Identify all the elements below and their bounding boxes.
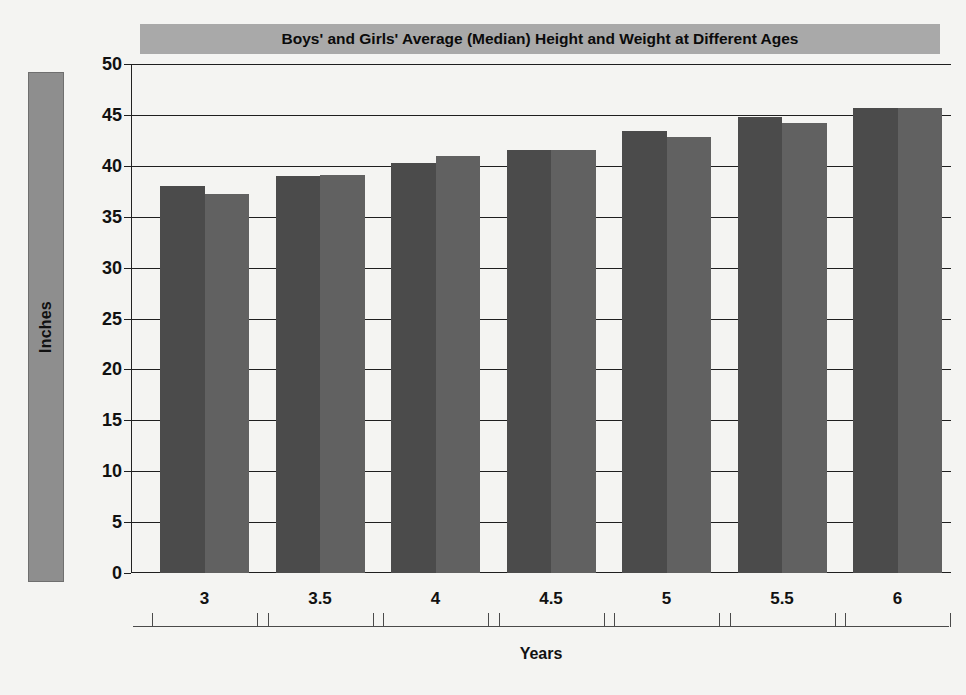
x-tick-label-5: 5 [662,589,671,609]
x-tick-mark-4.5-end [604,613,605,627]
chart-title-bar: Boys' and Girls' Average (Median) Height… [140,24,940,54]
y-tick-label-25: 25 [102,308,122,329]
x-axis-title: Years [131,645,951,663]
y-tick-mark-50 [124,64,131,65]
chart-title: Boys' and Girls' Average (Median) Height… [282,30,799,48]
plot-area [131,64,951,573]
x-tick-mark-6-start [845,613,846,627]
x-axis-line [133,626,949,627]
bar-girls-3.5 [320,175,365,573]
bar-girls-3 [205,194,250,573]
bar-girls-5 [667,137,712,573]
y-tick-label-50: 50 [102,54,122,75]
x-tick-mark-3.5-end [373,613,374,627]
x-tick-mark-5.5-end [835,613,836,627]
x-tick-mark-5.5-start [730,613,731,627]
y-axis-tick-labels: 05101520253035404550 [70,57,126,573]
y-tick-mark-5 [124,522,131,523]
y-axis-title-band: Inches [28,72,64,582]
y-tick-label-0: 0 [112,563,122,584]
x-tick-mark-4-start [383,613,384,627]
y-tick-mark-40 [124,166,131,167]
x-tick-label-4: 4 [431,589,440,609]
bar-girls-5.5 [782,123,827,573]
bar-boys-5.5 [738,117,783,573]
y-tick-label-40: 40 [102,155,122,176]
x-tick-label-3.5: 3.5 [308,589,332,609]
bar-boys-6 [853,108,898,573]
bar-boys-3 [160,186,205,573]
x-axis: 33.544.555.56 [131,573,951,633]
bar-girls-6 [898,108,943,573]
y-tick-label-45: 45 [102,104,122,125]
bar-girls-4.5 [551,150,596,573]
x-tick-mark-5-start [614,613,615,627]
y-tick-label-20: 20 [102,359,122,380]
y-tick-label-30: 30 [102,257,122,278]
y-tick-label-35: 35 [102,206,122,227]
y-axis-title: Inches [37,301,55,353]
bars-layer [131,64,951,573]
y-tick-mark-35 [124,217,131,218]
x-tick-label-4.5: 4.5 [539,589,563,609]
y-tick-mark-30 [124,268,131,269]
bar-boys-3.5 [276,176,321,573]
bar-boys-4.5 [507,150,552,573]
y-tick-label-5: 5 [112,512,122,533]
y-tick-mark-15 [124,420,131,421]
x-tick-mark-4.5-start [499,613,500,627]
x-tick-mark-3.5-start [268,613,269,627]
y-tick-mark-0 [124,573,131,574]
bar-boys-5 [622,131,667,573]
x-tick-mark-4-end [488,613,489,627]
bar-girls-4 [436,156,481,573]
y-tick-label-10: 10 [102,461,122,482]
x-tick-label-6: 6 [893,589,902,609]
y-tick-mark-45 [124,115,131,116]
x-tick-label-5.5: 5.5 [770,589,794,609]
x-tick-label-3: 3 [200,589,209,609]
y-tick-mark-20 [124,369,131,370]
x-tick-mark-6-end [950,613,951,627]
x-tick-mark-5-end [719,613,720,627]
x-tick-mark-3-start [152,613,153,627]
y-tick-mark-10 [124,471,131,472]
y-tick-mark-25 [124,319,131,320]
y-tick-label-15: 15 [102,410,122,431]
bar-boys-4 [391,163,436,573]
x-tick-mark-3-end [257,613,258,627]
